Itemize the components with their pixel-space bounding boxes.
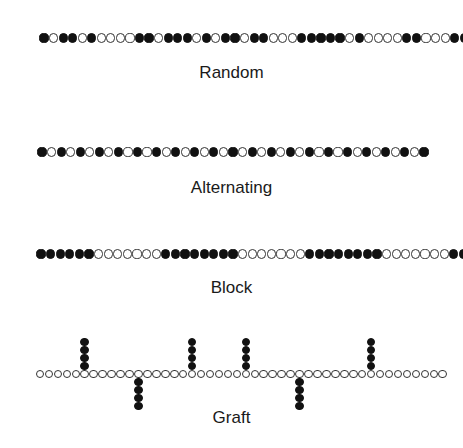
open-monomer-bead [142, 147, 151, 156]
open-monomer-bead [143, 370, 152, 379]
filled-monomer-bead [460, 33, 463, 42]
open-monomer-bead [421, 33, 430, 42]
open-monomer-bead [233, 370, 242, 379]
open-monomer-bead [411, 249, 420, 258]
filled-monomer-bead [242, 362, 251, 371]
open-monomer-bead [358, 370, 367, 379]
open-monomer-bead [78, 33, 87, 42]
filled-monomer-bead [459, 249, 463, 258]
open-monomer-bead [49, 33, 58, 42]
open-monomer-bead [206, 370, 215, 379]
open-monomer-bead [152, 370, 161, 379]
open-monomer-bead [353, 147, 362, 156]
open-monomer-bead [441, 33, 450, 42]
filled-monomer-bead [242, 354, 251, 363]
filled-monomer-bead [84, 249, 93, 258]
filled-monomer-bead [315, 249, 324, 258]
filled-monomer-bead [335, 33, 344, 42]
filled-monomer-bead [316, 33, 325, 42]
filled-monomer-bead [36, 249, 45, 258]
open-monomer-bead [430, 370, 439, 379]
filled-monomer-bead [419, 147, 428, 156]
filled-monomer-bead [286, 147, 295, 156]
open-monomer-bead [372, 147, 381, 156]
filled-monomer-bead [449, 249, 458, 258]
open-monomer-bead [340, 370, 349, 379]
filled-monomer-bead [402, 33, 411, 42]
open-monomer-bead [161, 370, 170, 379]
open-monomer-bead [412, 370, 421, 379]
open-monomer-bead [125, 370, 134, 379]
open-monomer-bead [288, 33, 297, 42]
filled-monomer-bead [363, 249, 372, 258]
open-monomer-bead [170, 370, 179, 379]
open-monomer-bead [54, 370, 63, 379]
open-monomer-bead [333, 147, 342, 156]
open-monomer-bead [89, 370, 98, 379]
open-monomer-bead [268, 370, 277, 379]
open-monomer-bead [259, 370, 268, 379]
filled-monomer-bead [450, 33, 459, 42]
open-monomer-bead [80, 370, 89, 379]
filled-monomer-bead [57, 147, 66, 156]
filled-monomer-bead [219, 249, 228, 258]
open-monomer-bead [286, 249, 295, 258]
filled-monomer-bead [135, 33, 144, 42]
open-monomer-bead [211, 33, 220, 42]
open-monomer-bead [286, 370, 295, 379]
filled-monomer-bead [372, 249, 381, 258]
open-monomer-bead [98, 370, 107, 379]
open-monomer-bead [276, 249, 285, 258]
open-monomer-bead [267, 249, 276, 258]
filled-monomer-bead [173, 33, 182, 42]
open-monomer-bead [345, 33, 354, 42]
filled-monomer-bead [230, 33, 239, 42]
open-monomer-bead [367, 370, 376, 379]
open-monomer-bead [104, 249, 113, 258]
filled-monomer-bead [144, 33, 153, 42]
filled-monomer-bead [80, 362, 89, 371]
open-monomer-bead [401, 249, 410, 258]
filled-monomer-bead [355, 33, 364, 42]
open-monomer-bead [431, 33, 440, 42]
filled-monomer-bead [228, 249, 237, 258]
filled-monomer-bead [324, 249, 333, 258]
open-monomer-bead [45, 370, 54, 379]
open-monomer-bead [192, 33, 201, 42]
filled-monomer-bead [133, 147, 142, 156]
filled-monomer-bead [209, 249, 218, 258]
open-monomer-bead [430, 249, 439, 258]
filled-monomer-bead [37, 147, 46, 156]
open-monomer-bead [251, 370, 260, 379]
open-monomer-bead [215, 370, 224, 379]
open-monomer-bead [94, 249, 103, 258]
open-monomer-bead [410, 147, 419, 156]
filled-monomer-bead [56, 249, 65, 258]
open-monomer-bead [116, 370, 125, 379]
filled-monomer-bead [202, 33, 211, 42]
open-monomer-bead [240, 33, 249, 42]
filled-monomer-bead [134, 394, 143, 403]
filled-monomer-bead [307, 33, 316, 42]
filled-monomer-bead [180, 249, 189, 258]
filled-monomer-bead [46, 249, 55, 258]
random-label: Random [0, 63, 463, 83]
open-monomer-bead [393, 33, 402, 42]
open-monomer-bead [123, 147, 132, 156]
open-monomer-bead [257, 147, 266, 156]
filled-monomer-bead [39, 33, 48, 42]
open-monomer-bead [257, 249, 266, 258]
filled-monomer-bead [367, 338, 376, 347]
open-monomer-bead [36, 370, 45, 379]
filled-monomer-bead [324, 147, 333, 156]
open-monomer-bead [104, 147, 113, 156]
open-monomer-bead [438, 370, 447, 379]
open-monomer-bead [152, 249, 161, 258]
open-monomer-bead [224, 370, 233, 379]
filled-monomer-bead [362, 147, 371, 156]
filled-monomer-bead [344, 249, 353, 258]
filled-monomer-bead [152, 147, 161, 156]
open-monomer-bead [219, 147, 228, 156]
open-monomer-bead [179, 370, 188, 379]
open-monomer-bead [374, 33, 383, 42]
